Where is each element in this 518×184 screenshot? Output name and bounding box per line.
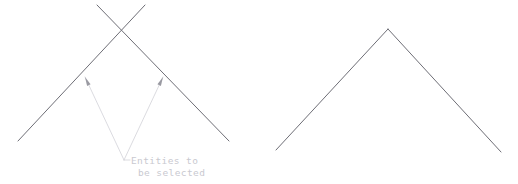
entity-line-a[interactable] (18, 5, 145, 141)
annotation-leader-group (85, 77, 163, 160)
entity-line-b[interactable] (97, 5, 229, 141)
right-figure-chevron (276, 29, 501, 152)
leader-arrowhead-right-icon (157, 77, 163, 86)
leader-line-right (124, 77, 163, 160)
leader-arrowhead-left-icon (85, 77, 91, 86)
annotation-text-line-1: Entities to (131, 155, 198, 166)
left-figure-crossing-lines (18, 5, 229, 141)
entity-line-d[interactable] (388, 29, 501, 152)
leader-line-left (85, 77, 124, 160)
annotation-text-group: Entities to be selected (131, 155, 205, 178)
entity-line-c[interactable] (276, 29, 388, 150)
diagram-svg: Entities to be selected (0, 0, 518, 184)
annotation-text-line-2: be selected (138, 167, 205, 178)
cad-illustration-canvas: Entities to be selected (0, 0, 518, 184)
